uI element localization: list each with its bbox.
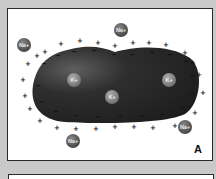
svg-text:–: –	[160, 110, 164, 119]
svg-text:–: –	[36, 81, 40, 90]
svg-text:+: +	[200, 89, 206, 97]
svg-text:Na+: Na+	[116, 27, 126, 33]
svg-text:–: –	[180, 103, 184, 112]
svg-text:+: +	[42, 48, 48, 56]
svg-text:–: –	[190, 71, 194, 80]
svg-text:+: +	[196, 71, 202, 79]
svg-text:+: +	[172, 122, 178, 130]
svg-text:+: +	[93, 125, 99, 133]
svg-text:+: +	[192, 109, 198, 117]
svg-text:–: –	[96, 112, 100, 121]
svg-text:+: +	[146, 39, 152, 47]
svg-text:–: –	[190, 89, 194, 98]
svg-text:+: +	[20, 76, 26, 84]
svg-text:+: +	[25, 60, 31, 68]
cell-membrane-diagram: – – – – – – – – – – – – – – – – – – – – …	[0, 0, 216, 179]
na-ion: Na+	[66, 134, 80, 148]
svg-text:–: –	[74, 111, 78, 120]
svg-text:–: –	[54, 107, 58, 116]
svg-text:–: –	[42, 59, 46, 68]
k-ion: K+	[162, 73, 176, 87]
panel-label-a: A	[194, 143, 202, 155]
na-ion: Na+	[178, 120, 192, 134]
svg-text:+: +	[150, 124, 156, 132]
svg-text:–: –	[168, 50, 172, 59]
svg-text:+: +	[131, 123, 137, 131]
na-ion: Na+	[17, 38, 31, 52]
svg-text:K+: K+	[108, 94, 115, 100]
svg-text:+: +	[37, 117, 43, 125]
k-ion: K+	[105, 90, 119, 104]
svg-text:+: +	[112, 123, 118, 131]
na-ion: Na+	[114, 23, 128, 37]
svg-text:K+: K+	[165, 77, 172, 83]
svg-text:+: +	[27, 105, 33, 113]
svg-text:–: –	[130, 50, 134, 59]
svg-text:+: +	[34, 52, 40, 60]
svg-text:–: –	[140, 111, 144, 120]
svg-text:Na+: Na+	[180, 124, 190, 130]
svg-text:–: –	[150, 48, 154, 57]
svg-text:+: +	[95, 39, 101, 47]
svg-text:+: +	[77, 37, 83, 45]
svg-text:–: –	[118, 112, 122, 121]
svg-text:+: +	[182, 49, 188, 57]
svg-text:–: –	[56, 51, 60, 60]
svg-text:+: +	[112, 42, 118, 50]
svg-text:+: +	[22, 92, 28, 100]
svg-text:+: +	[58, 40, 64, 48]
svg-text:–: –	[184, 57, 188, 66]
svg-text:–: –	[112, 50, 116, 59]
svg-text:+: +	[190, 59, 196, 67]
svg-text:–: –	[40, 97, 44, 106]
svg-text:K+: K+	[70, 77, 77, 83]
svg-text:Na+: Na+	[68, 138, 78, 144]
svg-text:+: +	[163, 41, 169, 49]
k-ion: K+	[67, 73, 81, 87]
svg-text:+: +	[73, 125, 79, 133]
svg-text:Na+: Na+	[19, 42, 29, 48]
svg-text:–: –	[72, 47, 76, 56]
svg-text:–: –	[92, 46, 96, 55]
svg-text:+: +	[54, 124, 60, 132]
svg-text:+: +	[130, 39, 136, 47]
